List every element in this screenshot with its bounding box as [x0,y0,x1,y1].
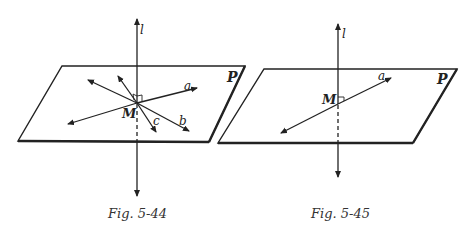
label-l: l [342,27,346,41]
label-b: b [179,114,187,128]
label-p: P [436,71,448,87]
label-l: l [140,23,144,37]
figure-5-45: l P M a Fig. 5-45 [218,24,457,221]
label-m: M [321,92,337,107]
label-m: M [121,106,137,121]
plane-p-front-edge [18,141,209,142]
figure-5-44: l P M a b c Fig. 5-44 [18,19,245,221]
label-a: a [378,69,385,83]
label-a: a [184,79,191,93]
diagram-canvas: l P M a b c Fig. 5-44 l P M a Fig. 5-45 [0,0,473,232]
caption-fig-5-45: Fig. 5-45 [310,206,370,221]
label-p: P [226,69,238,85]
caption-fig-5-44: Fig. 5-44 [107,206,167,221]
label-c: c [153,114,160,128]
